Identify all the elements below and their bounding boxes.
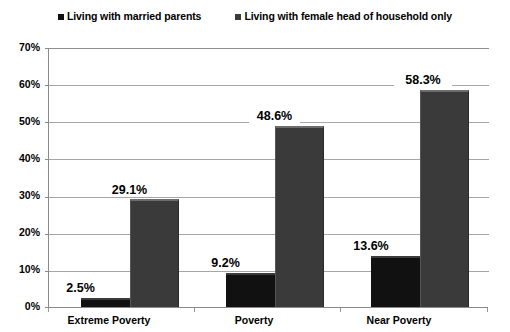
legend-label-series-0: Living with married parents xyxy=(67,10,201,22)
y-axis-tick-60 xyxy=(45,85,49,86)
value-label-extreme-poverty-female-head: 29.1% xyxy=(104,183,155,197)
y-axis-tick-10 xyxy=(45,271,49,272)
chart-legend: Living with married parents Living with … xyxy=(0,7,510,25)
y-axis-tick-50 xyxy=(45,122,49,123)
value-label-extreme-poverty-married-parents: 2.5% xyxy=(55,281,106,295)
y-axis-label-10: 10% xyxy=(0,264,40,275)
y-axis-label-60: 60% xyxy=(0,79,40,90)
y-axis-label-50: 50% xyxy=(0,116,40,127)
value-label-near-poverty-female-head: 58.3% xyxy=(394,73,452,87)
x-axis-tick-1 xyxy=(194,308,195,312)
legend-swatch-icon-series-1 xyxy=(235,14,241,20)
y-axis-label-0: 0% xyxy=(0,301,40,312)
y-axis-label-70: 70% xyxy=(0,42,40,53)
legend-entry-female-head-household: Living with female head of household onl… xyxy=(235,10,452,22)
legend-entry-married-parents: Living with married parents xyxy=(58,10,201,22)
bar-poverty-female-head[interactable] xyxy=(275,126,324,307)
bar-extreme-poverty-female-head[interactable] xyxy=(130,199,179,307)
y-axis-tick-40 xyxy=(45,159,49,160)
x-axis-label-poverty: Poverty xyxy=(200,314,308,326)
gridline-70 xyxy=(49,48,489,49)
x-axis-tick-0 xyxy=(48,308,49,312)
plot-area xyxy=(48,48,488,308)
x-axis-tick-2 xyxy=(340,308,341,312)
y-axis-label-40: 40% xyxy=(0,153,40,164)
bar-extreme-poverty-married-parents[interactable] xyxy=(81,298,130,307)
y-axis-tick-70 xyxy=(45,48,49,49)
x-axis-tick-3 xyxy=(487,308,488,312)
value-label-near-poverty-married-parents: 13.6% xyxy=(342,239,400,253)
legend-label-series-1: Living with female head of household onl… xyxy=(244,10,452,22)
bar-near-poverty-married-parents[interactable] xyxy=(371,256,420,307)
x-axis-label-extreme-poverty: Extreme Poverty xyxy=(55,314,163,326)
y-axis-label-20: 20% xyxy=(0,227,40,238)
bar-near-poverty-female-head[interactable] xyxy=(420,90,469,307)
value-label-poverty-married-parents: 9.2% xyxy=(200,256,251,270)
legend-swatch-icon-series-0 xyxy=(58,14,64,20)
bar-chart: Living with married parents Living with … xyxy=(0,0,510,332)
bar-poverty-married-parents[interactable] xyxy=(226,273,275,307)
y-axis-tick-20 xyxy=(45,234,49,235)
x-axis-label-near-poverty: Near Poverty xyxy=(345,314,453,326)
y-axis-label-30: 30% xyxy=(0,190,40,201)
value-label-poverty-female-head: 48.6% xyxy=(249,109,300,123)
y-axis-tick-30 xyxy=(45,197,49,198)
